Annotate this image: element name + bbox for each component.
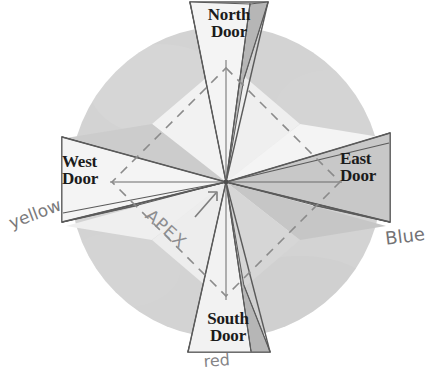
diagram-canvas: North Door South Door West Door East Doo… bbox=[0, 0, 426, 371]
floorplan-svg bbox=[0, 0, 426, 371]
apex-point bbox=[224, 180, 229, 185]
